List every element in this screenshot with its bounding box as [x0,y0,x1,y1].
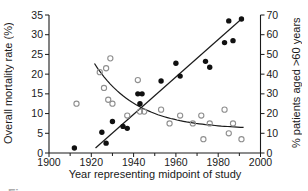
y-right-tick-label: 20 [267,107,279,119]
rising-linear-fit [96,19,242,148]
data-point-filled-circle [99,130,104,135]
data-point-open-circle [167,121,172,126]
y-left-tick-label: 25 [31,48,43,60]
data-point-open-circle [199,113,204,118]
data-point-filled-circle [72,145,77,150]
y-right-tick-label: 30 [267,87,279,99]
y-left-tick-label: 15 [31,87,43,99]
data-point-open-circle [101,85,106,90]
y-left-tick-label: 5 [37,127,43,139]
data-point-filled-circle [226,18,231,23]
chart-plot-area: 1900192019401960198020000510152025303501… [0,0,308,191]
data-point-filled-circle [239,16,244,21]
data-point-filled-circle [125,126,130,131]
y-left-tick-label: 30 [31,28,43,40]
data-point-filled-circle [177,73,182,78]
data-point-open-circle [110,101,115,106]
data-point-filled-circle [222,40,227,45]
x-tick-label: 1920 [80,156,104,168]
data-point-filled-circle [173,61,178,66]
x-tick-label: 1940 [122,156,146,168]
y-left-tick-label: 35 [31,9,43,21]
data-point-open-circle [106,97,111,102]
x-tick-label: 1980 [207,156,231,168]
data-point-filled-circle [230,38,235,43]
data-point-filled-circle [158,78,163,83]
data-point-open-circle [226,131,231,136]
y-right-tick-label: 60 [267,28,279,40]
y-right-tick-label: 40 [267,68,279,80]
data-point-filled-circle [203,59,208,64]
y-axis-label-right: % patients aged >60 years [289,8,304,158]
data-point-open-circle [158,107,163,112]
data-point-open-circle [222,107,227,112]
y-right-tick-label: 50 [267,48,279,60]
y-left-tick-label: 0 [37,147,43,159]
y-right-tick-label: 70 [267,9,279,21]
data-point-open-circle [135,77,140,82]
data-point-filled-circle [137,101,142,106]
data-point-open-circle [74,101,79,106]
y-right-tick-label: 10 [267,127,279,139]
data-point-open-circle [230,121,235,126]
y-right-tick-label: 0 [267,147,273,159]
data-point-open-circle [201,137,206,142]
partial-figure-caption: Figure [8,187,98,191]
y-left-tick-label: 10 [31,107,43,119]
data-point-filled-circle [207,65,212,70]
data-point-open-circle [178,113,183,118]
data-point-open-circle [125,113,130,118]
y-left-tick-label: 20 [31,68,43,80]
data-point-open-circle [239,137,244,142]
data-point-filled-circle [110,119,115,124]
data-point-open-circle [104,66,109,71]
x-tick-label: 1960 [164,156,188,168]
data-point-filled-circle [103,140,108,145]
chart-figure: Overall mortality rate (%) 1900192019401… [0,0,308,191]
falling-decay-fit [95,64,244,128]
data-point-open-circle [108,56,113,61]
data-point-filled-circle [139,91,144,96]
x-axis-label: Year representing midpoint of study [49,168,261,180]
